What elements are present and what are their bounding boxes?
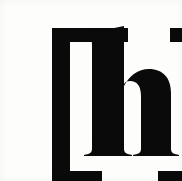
bracketed-letter-figure: [h] bbox=[40, 16, 182, 181]
scanned-page-canvas: [h] bbox=[0, 0, 182, 181]
glyph-artwork bbox=[40, 16, 182, 181]
